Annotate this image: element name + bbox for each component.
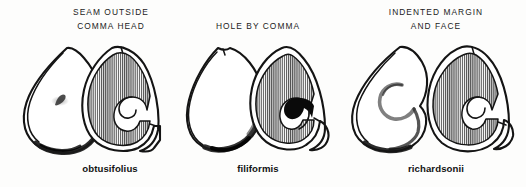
cross-section-view-richardsonii bbox=[428, 46, 514, 151]
header-line: SEAM OUTSIDE bbox=[31, 6, 191, 20]
column-header-filiformis: HOLE BY COMMA bbox=[193, 20, 323, 34]
species-caption-filiformis: filiformis bbox=[192, 163, 324, 174]
exterior-view-richardsonii bbox=[352, 47, 427, 151]
cross-section-view-obtusifolius bbox=[82, 47, 160, 151]
species-caption-obtusifolius: obtusifolius bbox=[30, 163, 190, 174]
figure-group-richardsonii bbox=[340, 44, 518, 162]
column-header-obtusifolius: SEAM OUTSIDE COMMA HEAD bbox=[31, 6, 191, 33]
figure-group-filiformis bbox=[178, 44, 336, 162]
figure-group-obtusifolius bbox=[10, 44, 172, 162]
header-line: HOLE BY COMMA bbox=[193, 20, 323, 34]
column-header-richardsonii: INDENTED MARGIN AND FACE bbox=[356, 6, 516, 33]
seed-identification-plate: SEAM OUTSIDE COMMA HEAD HOLE BY COMMA IN… bbox=[0, 0, 526, 187]
cross-section-view-filiformis bbox=[250, 47, 328, 150]
species-caption-richardsonii: richardsonii bbox=[355, 163, 517, 174]
header-line: INDENTED MARGIN bbox=[356, 6, 516, 20]
header-line: AND FACE bbox=[356, 20, 516, 34]
header-line: COMMA HEAD bbox=[31, 20, 191, 34]
